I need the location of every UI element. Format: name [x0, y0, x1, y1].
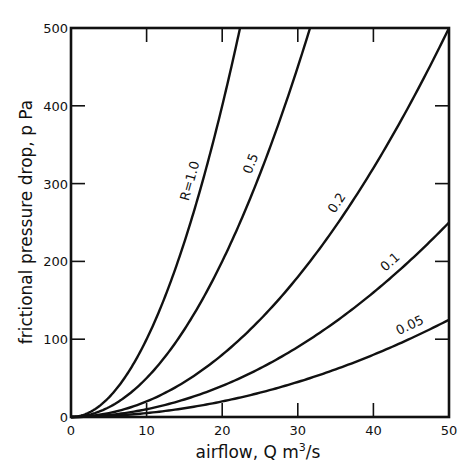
x-tick-label: 50 — [441, 423, 458, 438]
y-axis-title: frictional pressure drop, p Pa — [16, 100, 36, 345]
curve-labels: R=1.00.50.20.10.05 — [177, 151, 426, 338]
x-tick-label: 30 — [290, 423, 307, 438]
x-tick-label: 0 — [67, 423, 75, 438]
curve-0.2 — [71, 28, 449, 417]
x-tick-label: 40 — [365, 423, 382, 438]
curves — [71, 28, 449, 417]
curve-R=1.0 — [71, 28, 240, 417]
y-tick-label: 0 — [60, 410, 68, 425]
y-axis: 0100200300400500 — [43, 21, 449, 425]
x-tick-label: 10 — [138, 423, 155, 438]
y-tick-label: 200 — [43, 254, 68, 269]
x-axis-title: airflow, Q m3/s — [196, 441, 321, 462]
plot-frame — [71, 28, 449, 417]
x-tick-label: 20 — [214, 423, 231, 438]
y-tick-label: 100 — [43, 332, 68, 347]
curve-label: 0.5 — [240, 151, 261, 176]
y-tick-label: 500 — [43, 21, 68, 36]
chart: 01020304050 0100200300400500 R=1.00.50.2… — [0, 0, 473, 475]
y-tick-label: 400 — [43, 99, 68, 114]
y-tick-label: 300 — [43, 177, 68, 192]
